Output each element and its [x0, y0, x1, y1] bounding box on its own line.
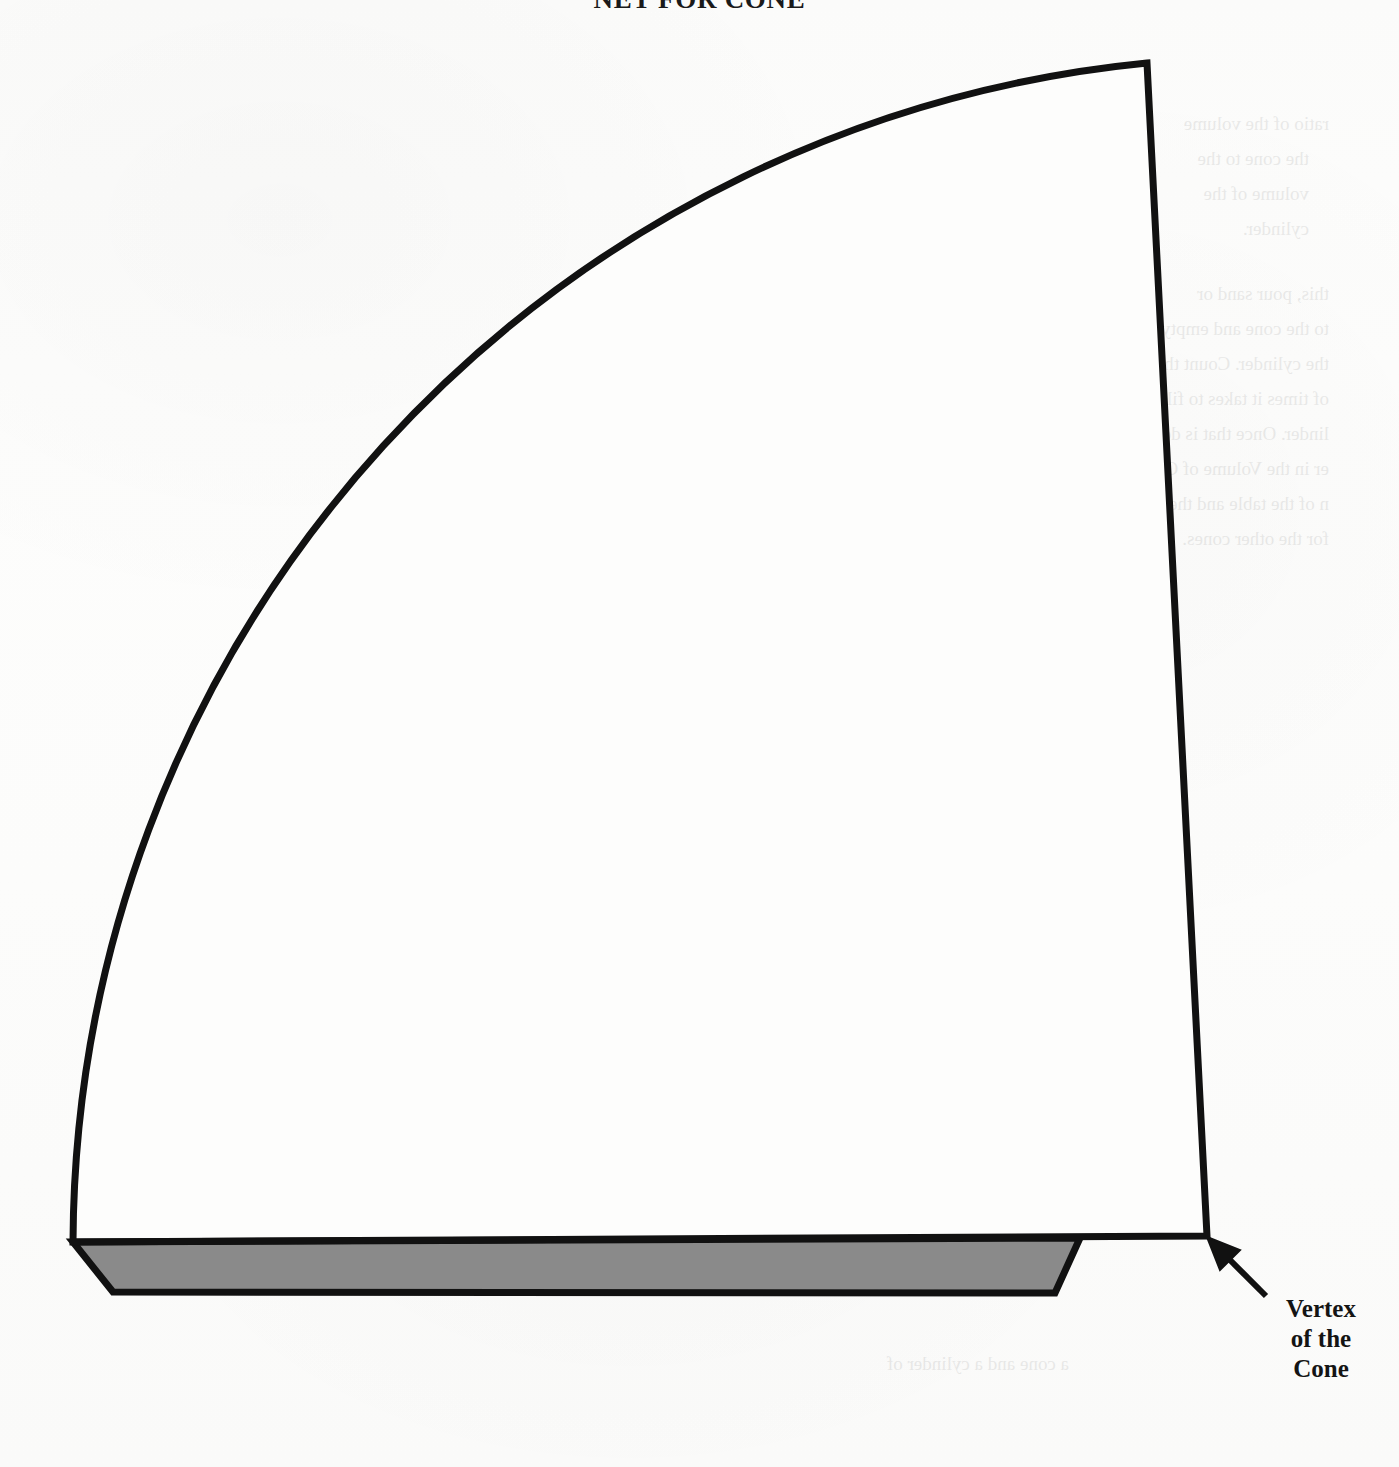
cone-net-drawing — [0, 0, 1399, 1467]
vertex-arrow — [1207, 1237, 1266, 1296]
figure-page: ratio of the volume the cone to the volu… — [0, 0, 1399, 1467]
shaded-base-band — [73, 1238, 1080, 1293]
vertex-callout-line-2: of the — [1258, 1324, 1384, 1354]
vertex-callout-label: Vertex of the Cone — [1258, 1294, 1384, 1384]
sector-face — [73, 63, 1207, 1242]
vertex-callout-line-3: Cone — [1258, 1354, 1384, 1384]
figure-title: NET FOR CONE — [0, 0, 1399, 15]
vertex-callout-line-1: Vertex — [1258, 1294, 1384, 1324]
